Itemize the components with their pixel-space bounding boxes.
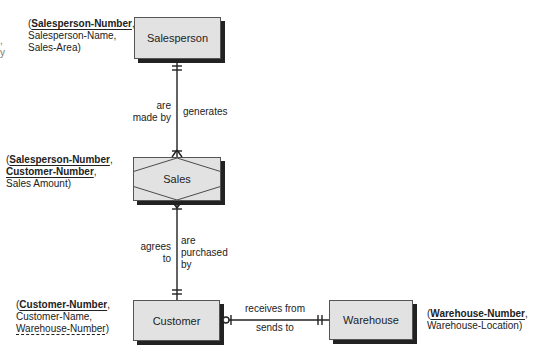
customer-attributes: (Customer-Number, Customer-Name, Warehou… <box>16 299 110 335</box>
cropped-text-fragment: , <box>0 35 3 46</box>
attribute-warehouse-location: Warehouse-Location) <box>427 320 528 332</box>
primary-key-warehouse-number: Warehouse-Number <box>430 308 525 319</box>
attribute-sales-area: Sales-Area) <box>28 42 135 54</box>
attribute-customer-name: Customer-Name, <box>16 311 110 323</box>
sales-attributes: (Salesperson-Number, Customer-Number, Sa… <box>6 154 113 190</box>
salesperson-attributes: (Salesperson-Number, Salesperson-Name, S… <box>28 18 135 54</box>
relationship-label-agrees-to: agrees to <box>128 241 171 265</box>
entity-label: Customer <box>153 315 201 327</box>
comma: , <box>110 154 113 165</box>
relationship-label-receives-from: receives from <box>245 303 305 315</box>
paren: ) <box>106 323 109 334</box>
cropped-text-fragment: y <box>0 47 5 58</box>
label-line: agrees <box>128 241 171 253</box>
foreign-key-warehouse-number: Warehouse-Number <box>16 323 106 334</box>
crows-foot-icon <box>220 320 227 325</box>
primary-key-salesperson-number: Salesperson-Number <box>31 18 132 29</box>
relationship-label-are-made-by: are made by <box>128 100 171 124</box>
comma: , <box>94 166 97 177</box>
entity-warehouse[interactable]: Warehouse <box>329 300 413 340</box>
label-line: to <box>128 253 171 265</box>
primary-key-salesperson-number: Salesperson-Number <box>9 154 110 165</box>
zero-circle-icon <box>223 317 229 323</box>
warehouse-attributes: (Warehouse-Number, Warehouse-Location) <box>427 308 528 332</box>
crows-foot-icon <box>172 150 177 157</box>
primary-key-customer-number: Customer-Number <box>19 299 107 310</box>
entity-label: Warehouse <box>343 314 399 326</box>
entity-label: Salesperson <box>147 32 208 44</box>
entity-customer[interactable]: Customer <box>133 300 220 341</box>
label-line: are <box>128 100 171 112</box>
entity-sales[interactable]: Sales <box>133 157 221 201</box>
relationship-label-are-purchased-by: are purchased by <box>181 235 228 271</box>
crows-foot-icon <box>220 315 227 320</box>
crows-foot-icon <box>172 201 177 208</box>
label-line: are <box>181 235 228 247</box>
crows-foot-icon <box>177 150 182 157</box>
entity-label: Sales <box>163 173 191 185</box>
comma: , <box>525 308 528 319</box>
label-line: made by <box>128 112 171 124</box>
relationship-label-sends-to: sends to <box>256 322 294 334</box>
comma: , <box>107 299 110 310</box>
relationship-label-generates: generates <box>183 106 227 118</box>
primary-key-customer-number: Customer-Number <box>6 166 94 177</box>
label-line: purchased <box>181 247 228 259</box>
crows-foot-icon <box>177 201 182 208</box>
entity-salesperson[interactable]: Salesperson <box>134 17 221 59</box>
attribute-salesperson-name: Salesperson-Name, <box>28 30 135 42</box>
attribute-sales-amount: Sales Amount) <box>6 178 113 190</box>
label-line: by <box>181 259 228 271</box>
